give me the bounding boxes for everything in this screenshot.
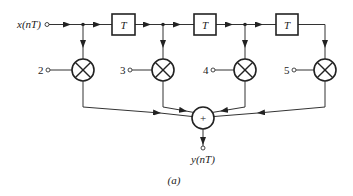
svg-text:T: T	[202, 19, 209, 31]
plus-icon: +	[200, 112, 206, 124]
multiplier-4: 5	[284, 59, 336, 81]
coefficient-label: 5	[284, 64, 290, 76]
multiplier-2: 3	[120, 59, 174, 81]
sum-line	[258, 81, 325, 113]
delay-block-1: T	[112, 14, 135, 35]
adder: +	[192, 107, 214, 129]
svg-text:T: T	[284, 19, 291, 31]
input-label: x(nT)	[16, 18, 41, 31]
multiplier-1: 2	[38, 59, 94, 81]
svg-text:T: T	[120, 19, 127, 31]
sum-line	[83, 81, 160, 113]
coefficient-label: 2	[38, 64, 44, 76]
output-port-icon	[201, 146, 205, 150]
input-port-icon	[45, 23, 49, 27]
delay-block-2: T	[194, 14, 216, 35]
output-label: y(nT)	[190, 153, 215, 166]
sum-line	[163, 81, 186, 111]
figure-caption: (a)	[168, 174, 181, 187]
multiplier-3: 4	[203, 59, 256, 81]
coefficient-label: 3	[120, 64, 126, 76]
delay-block-3: T	[276, 14, 298, 35]
fir-filter-diagram: x(nT) T T T 2	[0, 0, 353, 196]
coefficient-label: 4	[203, 64, 209, 76]
sum-line	[221, 81, 245, 111]
